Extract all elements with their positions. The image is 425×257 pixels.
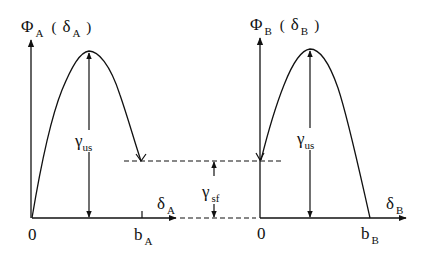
phi-subscript: B [264,25,271,37]
b-subscript: A [145,235,153,247]
right-origin-label: 0 [257,225,266,242]
gamma-subscript: us [305,139,315,151]
b-symbol: b [134,225,143,244]
delta-subscript: B [396,204,403,216]
phi-symbol: Φ [21,17,33,36]
phi-subscript: A [35,27,43,39]
gamma-symbol: γ [75,131,83,150]
open-paren: ( [280,17,285,33]
b-subscript: B [372,234,379,246]
gamma-sf-label: γsf [202,183,219,200]
gamma-symbol: γ [202,182,210,201]
gamma-subscript: sf [212,192,220,204]
delta-symbol: δ [157,194,165,213]
right-energy-curve [261,49,370,218]
left-x-axis-label: δA [157,195,175,212]
gamma-subscript: us [83,141,93,153]
left-gamma-us-label: γus [75,132,92,149]
close-paren: ) [314,17,319,33]
delta-symbol: δ [386,194,394,213]
right-y-axis-label: ΦB ( δB ) [250,16,319,33]
diagram-graphics [0,0,425,257]
delta-subscript: B [301,25,308,37]
right-x-axis-label: δB [386,195,403,212]
right-gamma-us-label: γus [297,130,314,147]
close-paren: ) [86,19,91,35]
phi-symbol: Φ [250,15,262,34]
left-y-axis-label: ΦA ( δA ) [21,18,91,35]
delta-symbol: δ [62,17,70,36]
right-end-label: bB [361,225,379,242]
left-origin-label: 0 [28,226,37,243]
delta-subscript: A [72,27,80,39]
open-paren: ( [51,19,56,35]
b-symbol: b [361,224,370,243]
delta-subscript: A [167,204,175,216]
energy-landscape-diagram: ΦA ( δA ) γus δA 0 bA γsf ΦB ( δB ) γus … [0,0,425,257]
gamma-symbol: γ [297,129,305,148]
left-end-label: bA [134,226,152,243]
delta-symbol: δ [291,15,299,34]
